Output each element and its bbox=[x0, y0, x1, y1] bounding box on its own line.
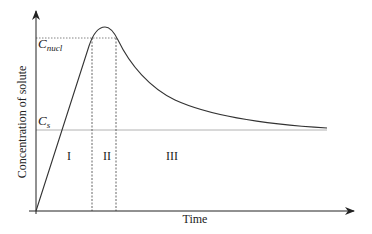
y-axis-label: Concentration of solute bbox=[15, 66, 29, 179]
region-label-ii: II bbox=[103, 149, 111, 163]
lamer-diagram: Cnucl Cs I II III Time Concentration of … bbox=[0, 0, 372, 234]
region-label-iii: III bbox=[166, 149, 178, 163]
region-label-i: I bbox=[67, 149, 71, 163]
x-axis-label: Time bbox=[183, 212, 208, 226]
concentration-curve bbox=[36, 27, 327, 211]
cnucl-label: Cnucl bbox=[38, 36, 63, 53]
cs-label: Cs bbox=[38, 113, 51, 130]
